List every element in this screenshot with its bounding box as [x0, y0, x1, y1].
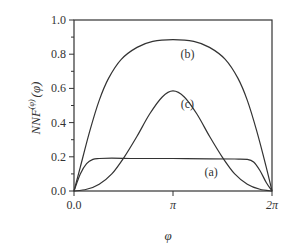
x-tick-label: 0.0 — [67, 198, 82, 212]
y-tick-label: 0.2 — [51, 150, 66, 164]
chart-container: 0.00.20.40.60.81.00.0π2π (a)(b)(c) φ NNF… — [0, 0, 290, 249]
series-line-b — [74, 40, 272, 191]
axes-frame — [74, 20, 272, 191]
chart-svg: 0.00.20.40.60.81.00.0π2π (a)(b)(c) φ NNF… — [0, 0, 290, 249]
y-axis-label-superscript: (φ) — [27, 99, 36, 109]
series-label: (a) — [204, 165, 217, 179]
x-tick-label: π — [170, 198, 177, 212]
series-label: (b) — [180, 47, 194, 61]
series-label: (c) — [181, 97, 194, 111]
svg-text:NNF(φ)(φ): NNF(φ)(φ) — [27, 82, 43, 136]
series-line-a — [74, 158, 272, 191]
y-tick-label: 0.4 — [51, 116, 66, 130]
plot-frame — [74, 20, 272, 191]
curves-group — [74, 40, 272, 191]
x-tick-label: 2π — [266, 198, 279, 212]
y-axis-label-suffix: (φ) — [28, 82, 43, 98]
y-axis-label-main: NNF — [28, 108, 43, 135]
y-axis-label: NNF(φ)(φ) — [27, 82, 43, 136]
x-axis-label: φ — [164, 228, 171, 243]
y-tick-label: 0.8 — [51, 47, 66, 61]
y-tick-label: 1.0 — [51, 13, 66, 27]
series-line-c — [74, 91, 272, 191]
y-tick-label: 0.0 — [51, 184, 66, 198]
y-tick-label: 0.6 — [51, 81, 66, 95]
